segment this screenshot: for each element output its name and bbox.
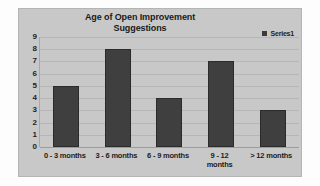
bar-slot [144,37,196,147]
y-axis-tick-label: 8 [33,45,37,53]
y-axis-tick-label: 2 [33,119,37,127]
y-axis-tick-label: 3 [33,106,37,114]
chart-title: Age of Open Improvement Suggestions [45,12,235,34]
bar-slot [40,37,92,147]
legend-swatch-series1-icon [262,31,267,36]
axis-baseline [40,147,299,148]
y-axis-tick-label: 9 [33,33,37,41]
x-axis-tick-label: 0 - 3 months [39,151,91,169]
bar-slot [195,37,247,147]
x-axis-tick-label: 6 - 9 months [142,151,194,169]
bar[interactable] [53,86,79,147]
x-axis-tick-label: 9 - 12months [194,151,246,169]
chart-container: Age of Open Improvement Suggestions Seri… [18,8,302,177]
y-axis-tick-label: 6 [33,70,37,78]
y-axis-tick-label: 1 [33,131,37,139]
bar-series-series1 [40,37,299,147]
x-axis-tick-label: 3 - 6 months [91,151,143,169]
chart-screenshot: Age of Open Improvement Suggestions Seri… [0,0,320,186]
bar[interactable] [105,49,131,147]
x-axis-tick-label: > 12 months [245,151,297,169]
bar[interactable] [156,98,182,147]
chart-legend: Series1 [262,30,294,37]
x-axis: 0 - 3 months3 - 6 months6 - 9 months9 - … [39,151,297,169]
legend-label-series1: Series1 [270,30,294,37]
bar-slot [247,37,299,147]
y-axis-tick-label: 7 [33,57,37,65]
chart-title-line-2: Suggestions [45,23,235,34]
y-axis-tick-label: 5 [33,82,37,90]
bar[interactable] [260,110,286,147]
y-axis: 9876543210 [23,37,37,147]
plot-area [39,37,299,147]
y-axis-tick-label: 0 [33,143,37,151]
bar[interactable] [208,61,234,147]
y-axis-tick-label: 4 [33,94,37,102]
plot-wrapper: 9876543210 [19,37,302,149]
chart-title-line-1: Age of Open Improvement [45,12,235,23]
bar-slot [92,37,144,147]
